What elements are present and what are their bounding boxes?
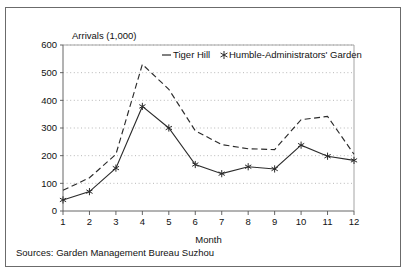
chart-plot-area: Arrivals (1,000)600500400300200100012345… xyxy=(6,8,400,266)
y-tick-label: 200 xyxy=(41,150,57,161)
x-tick-label: 6 xyxy=(193,216,198,227)
x-tick-label: 10 xyxy=(296,216,307,227)
y-tick-label: 600 xyxy=(41,39,57,50)
x-tick-label: 12 xyxy=(349,216,360,227)
x-tick-label: 9 xyxy=(272,216,277,227)
arrivals-line-chart: Arrivals (1,000)600500400300200100012345… xyxy=(6,8,402,268)
x-tick-label: 2 xyxy=(87,216,92,227)
series-line-tiger-hill xyxy=(63,64,354,190)
y-tick-label: 400 xyxy=(41,95,57,106)
data-point-marker xyxy=(139,103,145,110)
y-axis-title: Arrivals (1,000) xyxy=(72,30,136,41)
legend-star-sample-icon xyxy=(221,51,228,59)
legend-label-tiger-hill: Tiger Hill xyxy=(173,49,210,60)
x-tick-label: 11 xyxy=(323,216,333,227)
figure-frame: Arrivals (1,000)600500400300200100012345… xyxy=(5,7,401,267)
x-axis-title: Month xyxy=(195,234,221,245)
y-tick-label: 100 xyxy=(41,178,57,189)
y-tick-label: 300 xyxy=(41,122,57,133)
x-tick-label: 3 xyxy=(113,216,118,227)
data-point-marker xyxy=(60,196,66,203)
x-tick-label: 1 xyxy=(60,216,65,227)
y-tick-label: 500 xyxy=(41,67,57,78)
x-tick-label: 7 xyxy=(219,216,224,227)
source-note: Sources: Garden Management Bureau Suzhou xyxy=(16,247,214,258)
data-point-marker xyxy=(219,170,225,177)
series-line-humble-administrators-garden xyxy=(63,106,354,200)
legend-label-humble-administrators-garden: Humble-Administrators' Garden xyxy=(229,49,362,60)
x-tick-label: 5 xyxy=(166,216,171,227)
y-tick-label: 0 xyxy=(52,205,57,216)
x-tick-label: 4 xyxy=(140,216,145,227)
x-tick-label: 8 xyxy=(246,216,251,227)
